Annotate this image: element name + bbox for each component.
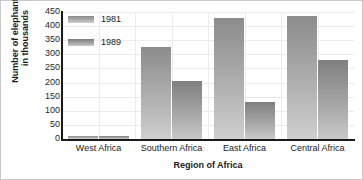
bar-group [135,12,208,139]
legend-swatch-1981 [68,16,94,23]
x-axis-category-label: West Africa [62,143,135,153]
y-axis-tick-label: 200 [45,78,60,87]
y-axis-tick-label: 400 [45,21,60,30]
y-axis-title-line1: Number of elephants [10,0,20,83]
bar-central-africa-1989 [318,60,348,139]
plot-area [62,12,354,139]
y-axis-tick-label: 150 [45,92,60,101]
legend-swatch-1989 [68,39,94,46]
bar-group [208,12,281,139]
legend-label-1989: 1989 [101,37,121,48]
bar-southern-africa-1989 [172,81,202,139]
y-axis-tick-label: 450 [45,7,60,16]
y-axis-line [61,11,63,140]
bar-group [62,12,135,139]
x-axis-category-label: Central Africa [281,143,354,153]
x-axis-line [61,139,355,141]
elephant-population-bar-chart: Number of elephants in thousands 0501001… [0,0,363,180]
x-axis-category-label: East Africa [208,143,281,153]
bar-east-africa-1989 [245,102,275,139]
y-axis-tick-label: 0 [55,134,60,143]
y-axis-title: Number of elephants in thousands [10,0,30,105]
bar-group [281,12,354,139]
legend-label-1981: 1981 [101,14,121,25]
y-axis-tick-label: 350 [45,35,60,44]
x-axis-category-label: Southern Africa [135,143,208,153]
y-axis-tick-label: 100 [45,106,60,115]
y-axis-tick-label: 50 [50,120,60,129]
y-axis-tick-labels: 050100150200250300350400450 [36,11,60,141]
bar-central-africa-1981 [287,16,317,139]
y-axis-tick-label: 300 [45,49,60,58]
x-axis-title: Region of Africa [62,160,354,170]
y-axis-tick-label: 250 [45,63,60,72]
x-axis-category-labels: West AfricaSouthern AfricaEast AfricaCen… [62,143,354,157]
bar-east-africa-1981 [214,18,244,139]
bar-southern-africa-1981 [141,47,171,139]
y-axis-title-line2: in thousands [20,0,30,105]
